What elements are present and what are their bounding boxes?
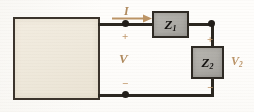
current-direction-arrow-icon bbox=[112, 14, 152, 23]
voltage-source-plus-sign: + bbox=[122, 31, 128, 42]
voltage-z2-label: V2 bbox=[231, 55, 243, 68]
impedance-z1-label: Z1 bbox=[165, 17, 177, 33]
voltage-z2-subscript: 2 bbox=[239, 60, 243, 69]
voltage-source-label: V bbox=[119, 52, 128, 65]
circuit-diagram-canvas: Z1 Z2 I + V − + V2 − bbox=[0, 0, 254, 112]
current-label: I bbox=[124, 5, 129, 17]
voltage-z2-minus-sign: − bbox=[207, 82, 213, 93]
junction-node-corner bbox=[208, 20, 215, 27]
voltage-source-minus-sign: − bbox=[122, 78, 128, 89]
junction-node-bottom bbox=[122, 91, 129, 98]
voltage-z2-plus-sign: + bbox=[207, 34, 213, 45]
wire-bottom bbox=[98, 94, 214, 97]
impedance-z2-subscript: 2 bbox=[209, 61, 213, 70]
impedance-z1-subscript: 1 bbox=[172, 23, 176, 32]
impedance-z2-label: Z2 bbox=[202, 55, 214, 71]
source-network-block bbox=[13, 17, 100, 100]
impedance-z2-box[interactable]: Z2 bbox=[191, 46, 224, 79]
impedance-z1-box[interactable]: Z1 bbox=[152, 11, 189, 38]
